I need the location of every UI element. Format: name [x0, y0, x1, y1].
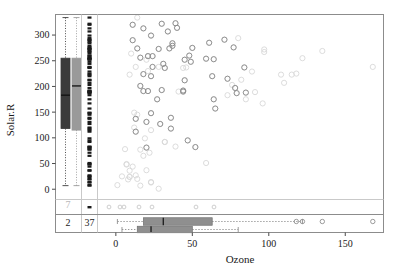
rug-tick	[88, 67, 92, 69]
rug-tick	[88, 61, 92, 63]
rug-tick	[88, 87, 92, 89]
count-missing-both: 2	[66, 217, 71, 228]
rug-tick	[88, 70, 92, 72]
rug-tick	[88, 121, 92, 123]
rug-tick	[88, 84, 92, 86]
hboxplot-box	[137, 226, 192, 233]
rug-tick	[88, 166, 92, 168]
rug-tick	[88, 114, 92, 116]
y-axis-tick-label: 250	[35, 55, 50, 66]
x-axis-title: Ozone	[226, 253, 255, 265]
rug-tick-missing	[88, 206, 92, 208]
rug-tick	[88, 27, 92, 29]
rug-tick	[88, 92, 92, 94]
rug-tick	[88, 155, 92, 157]
rug-tick	[88, 118, 92, 120]
count-missing-y: 7	[66, 199, 71, 210]
rug-tick	[88, 82, 92, 84]
rug-tick	[88, 79, 92, 81]
rug-tick	[88, 185, 92, 187]
rug-tick	[88, 181, 92, 183]
count-missing-x: 37	[85, 217, 95, 228]
rug-tick	[88, 94, 92, 96]
hboxplot-box	[143, 218, 212, 226]
x-axis-tick-label: 50	[187, 238, 197, 249]
rug-tick	[88, 107, 92, 109]
y-axis-tick-label: 200	[35, 81, 50, 92]
rug-tick	[88, 30, 92, 32]
rug-tick	[88, 123, 92, 125]
boxplot-box-vertical	[61, 58, 70, 128]
y-axis-tick-label: 50	[40, 158, 50, 169]
y-axis-tick-label: 0	[45, 184, 50, 195]
rug-tick	[88, 16, 92, 18]
rug-tick	[88, 152, 92, 154]
rug-tick	[88, 176, 92, 178]
rug-tick	[88, 59, 92, 61]
figure-background	[0, 0, 397, 278]
x-axis-tick-label: 0	[113, 238, 118, 249]
plot-canvas: 7237050100150200250300050100150Solar.ROz…	[0, 0, 397, 278]
rug-tick	[88, 163, 92, 165]
rug-tick	[88, 137, 92, 139]
marginal-plot-figure: 7237050100150200250300050100150Solar.ROz…	[0, 0, 397, 278]
rug-tick	[88, 178, 92, 180]
rug-tick	[88, 131, 92, 133]
boxplot-box-vertical	[72, 58, 81, 130]
y-axis-tick-label: 300	[35, 29, 50, 40]
rug-tick	[88, 63, 92, 65]
y-axis-title: Solar.R	[4, 103, 16, 136]
rug-tick	[88, 24, 92, 26]
rug-tick	[88, 102, 92, 104]
rug-tick	[88, 170, 92, 172]
rug-tick	[88, 141, 92, 143]
rug-tick	[88, 42, 92, 44]
rug-tick	[88, 149, 92, 151]
y-axis-tick-label: 150	[35, 107, 50, 118]
rug-tick	[88, 75, 92, 77]
rug-tick	[88, 52, 92, 54]
x-axis-tick-label: 100	[261, 238, 276, 249]
rug-tick	[88, 98, 92, 100]
x-axis-tick-label: 150	[338, 238, 353, 249]
rug-tick	[88, 34, 92, 36]
y-axis-tick-label: 100	[35, 132, 50, 143]
